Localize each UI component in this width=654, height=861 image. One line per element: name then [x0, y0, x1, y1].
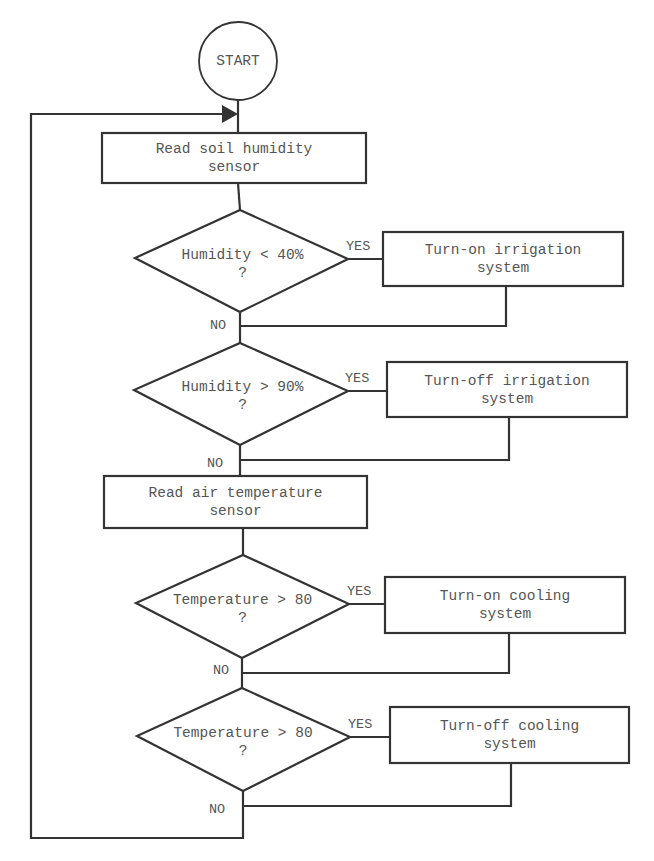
- cooling-off-process: Turn-off cooling system: [390, 707, 629, 763]
- irrigation-off-line2: system: [481, 390, 533, 408]
- no-label: NO: [209, 803, 225, 817]
- arrowhead-icon: [222, 105, 238, 123]
- read-soil-line1: Read soil humidity: [156, 140, 313, 158]
- irrigation-off-process: Turn-off irrigation system: [387, 362, 627, 417]
- yes-label: YES: [346, 240, 370, 254]
- read-soil-process: Read soil humidity sensor: [102, 133, 366, 183]
- decision-humidity-high-line1: Humidity > 90%: [182, 378, 304, 396]
- decision-temp-high-2-line2: ?: [239, 742, 248, 760]
- cooling-off-line2: system: [483, 735, 535, 753]
- decision-temp-high-1-line2: ?: [238, 609, 247, 627]
- decision-humidity-low: Humidity < 40% ?: [140, 244, 345, 284]
- irrigation-on-line1: Turn-on irrigation: [425, 241, 582, 259]
- irrigation-on-process: Turn-on irrigation system: [383, 232, 623, 286]
- read-air-line2: sensor: [209, 502, 261, 520]
- read-soil-line2: sensor: [208, 158, 260, 176]
- decision-humidity-high-line2: ?: [238, 396, 247, 414]
- irrigation-on-line2: system: [477, 259, 529, 277]
- cooling-off-line1: Turn-off cooling: [440, 717, 579, 735]
- no-label: NO: [210, 319, 226, 333]
- decision-temp-high-1: Temperature > 80 ?: [140, 589, 345, 629]
- irrigation-off-line1: Turn-off irrigation: [424, 372, 589, 390]
- cooling-on-process: Turn-on cooling system: [385, 577, 625, 633]
- flowchart-canvas: START Read soil humidity sensor Humidity…: [0, 0, 654, 861]
- decision-temp-high-2-line1: Temperature > 80: [173, 724, 312, 742]
- decision-humidity-high: Humidity > 90% ?: [140, 376, 345, 416]
- no-label: NO: [207, 457, 223, 471]
- decision-temp-high-2: Temperature > 80 ?: [140, 722, 346, 762]
- yes-label: YES: [348, 718, 372, 732]
- decision-temp-high-1-line1: Temperature > 80: [173, 591, 312, 609]
- read-air-process: Read air temperature sensor: [104, 476, 367, 528]
- decision-humidity-low-line2: ?: [238, 264, 247, 282]
- start-label: START: [216, 52, 260, 70]
- cooling-on-line1: Turn-on cooling: [440, 587, 571, 605]
- yes-label: YES: [347, 585, 371, 599]
- no-label: NO: [213, 664, 229, 678]
- read-air-line1: Read air temperature: [148, 484, 322, 502]
- start-terminal: START: [199, 42, 277, 80]
- cooling-on-line2: system: [479, 605, 531, 623]
- decision-humidity-low-line1: Humidity < 40%: [182, 246, 304, 264]
- yes-label: YES: [345, 372, 369, 386]
